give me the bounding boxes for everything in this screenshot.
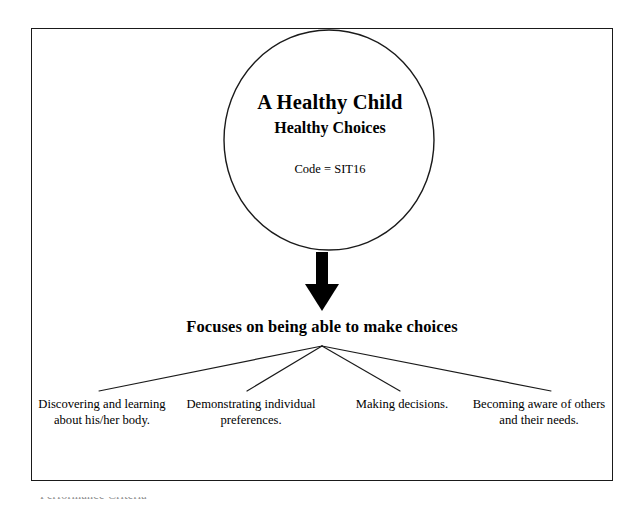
branch-label-4: Becoming aware of others and their needs… (470, 396, 608, 429)
cutoff-caption-text: Performance Criteria (40, 497, 147, 503)
branch-label-1: Discovering and learning about his/her b… (36, 396, 168, 429)
focus-heading: Focuses on being able to make choices (31, 317, 613, 337)
cutoff-caption-strip: Performance Criteria (0, 497, 640, 512)
root-node-title: A Healthy Child (224, 92, 436, 113)
page-root: A Healthy Child Healthy Choices Code = S… (0, 0, 640, 512)
branch-label-3: Making decisions. (338, 396, 466, 412)
branch-label-2: Demonstrating individual preferences. (168, 396, 334, 429)
root-node-code: Code = SIT16 (224, 163, 436, 176)
root-node-text-block: A Healthy Child Healthy Choices Code = S… (224, 92, 436, 175)
root-node-subtitle: Healthy Choices (224, 120, 436, 136)
